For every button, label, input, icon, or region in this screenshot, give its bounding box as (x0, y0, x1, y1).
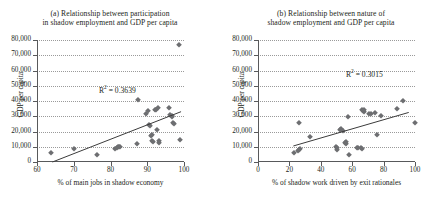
gridline (37, 71, 184, 72)
panel-b-title-line2: shadow employment and GDP per capita (227, 18, 435, 27)
scatter-point (145, 108, 151, 114)
x-axis-a (37, 161, 184, 162)
panel-b-title: (b) Relationship between nature of shado… (227, 9, 435, 28)
x-axis-tick-label: 90 (144, 167, 151, 174)
x-axis-tick-label: 80 (107, 167, 114, 174)
scatter-point (147, 123, 153, 129)
chart-panel-b: (b) Relationship between nature of shado… (221, 0, 441, 205)
r2-label-a: R2 = 0.3639 (99, 84, 136, 95)
scatter-point (378, 113, 384, 119)
x-axis-title-b: % of shadow work driven by exit rational… (272, 178, 401, 187)
gridline (37, 101, 184, 102)
gridline (37, 116, 184, 117)
y-axis-tick-label: 80,000 (232, 36, 252, 43)
scatter-point (394, 106, 400, 112)
scatter-point (155, 105, 161, 111)
scatter-point (345, 114, 351, 120)
y-axis-tick-label: 20,000 (11, 128, 31, 135)
scatter-point (400, 97, 406, 103)
scatter-point (295, 120, 301, 126)
y-axis-tick-label: 20,000 (232, 128, 252, 135)
plot-area-a: 010,00020,00030,00040,00050,00060,00070,… (37, 40, 184, 162)
plot-b: 010,00020,00030,00040,00050,00060,00070,… (258, 40, 415, 162)
x-axis-title-a: % of main jobs in shadow economy (58, 178, 164, 187)
gridline (37, 40, 184, 41)
gridline (258, 86, 415, 87)
x-axis-tick-label: 100 (179, 167, 190, 174)
scatter-point (176, 137, 182, 143)
gridline (258, 40, 415, 41)
scatter-point (307, 134, 313, 140)
scatter-point (48, 150, 54, 156)
y-axis-title-b: GDP per capita (237, 72, 246, 117)
gridline (37, 132, 184, 133)
x-axis-tick-label: 100 (410, 167, 421, 174)
x-axis-tick-label: 70 (70, 167, 77, 174)
panel-a-title-line1: (a) Relationship between participation (6, 9, 214, 18)
panel-a-title-line2: in shadow employment and GDP per capita (6, 18, 214, 27)
chart-panel-a: (a) Relationship between participation i… (0, 0, 220, 205)
r2-value-b: = 0.3015 (354, 70, 383, 79)
gridline (37, 55, 184, 56)
y-axis-title-a: GDP per capita (16, 72, 25, 117)
r2-value-a: = 0.3639 (107, 86, 136, 95)
y-axis-tick-label: 10,000 (232, 143, 252, 150)
scatter-point (176, 42, 182, 48)
gridline (258, 55, 415, 56)
gridline (37, 147, 184, 148)
figure-container: (a) Relationship between participation i… (0, 0, 441, 205)
gridline (258, 132, 415, 133)
y-axis-b (258, 40, 259, 162)
y-axis-a (37, 40, 38, 162)
scatter-point (372, 109, 378, 115)
x-axis-tick-label: 80 (380, 167, 387, 174)
scatter-point (346, 152, 352, 158)
y-axis-tick-label: 10,000 (11, 143, 31, 150)
r2-label-b: R2 = 0.3015 (346, 68, 383, 79)
scatter-point (135, 97, 141, 103)
plot-area-b: 010,00020,00030,00040,00050,00060,00070,… (258, 40, 415, 162)
y-axis-tick-label: 70,000 (232, 51, 252, 58)
scatter-point (165, 105, 171, 111)
panel-b-title-line1: (b) Relationship between nature of (227, 9, 435, 18)
scatter-point (373, 132, 379, 138)
y-axis-tick-label: 80,000 (11, 36, 31, 43)
scatter-point (412, 120, 418, 126)
y-axis-tick-label: 0 (248, 158, 252, 165)
x-axis-tick-label: 60 (33, 167, 40, 174)
x-axis-tick-label: 20 (286, 167, 293, 174)
gridline (258, 116, 415, 117)
x-axis-tick-label: 0 (256, 167, 260, 174)
x-axis-tick-label: 40 (317, 167, 324, 174)
scatter-point (340, 128, 346, 134)
y-axis-tick-label: 70,000 (11, 51, 31, 58)
x-axis-tick-label: 60 (349, 167, 356, 174)
panel-a-title: (a) Relationship between participation i… (6, 9, 214, 28)
y-axis-tick-label: 0 (27, 158, 31, 165)
plot-a: 010,00020,00030,00040,00050,00060,00070,… (37, 40, 184, 162)
scatter-point (93, 151, 99, 157)
gridline (258, 71, 415, 72)
gridline (258, 101, 415, 102)
x-axis-b (258, 161, 415, 162)
